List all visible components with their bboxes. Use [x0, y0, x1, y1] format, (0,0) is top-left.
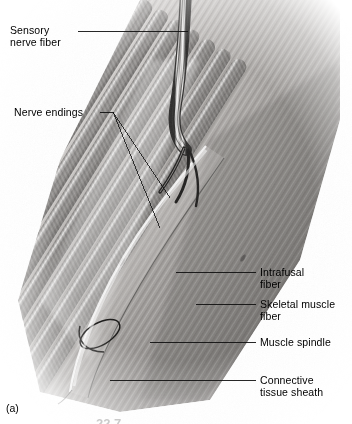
- muscle-spindle-illustration: [0, 0, 352, 424]
- skeletal-muscle-fibers: [0, 0, 249, 424]
- figure-part-marker: (a): [6, 402, 19, 414]
- label-skeletal-muscle-fiber: Skeletal muscle fiber: [260, 298, 335, 323]
- connective-tissue-sheath-group: [58, 146, 224, 404]
- cut-off-figure-caption: 22.7: [96, 416, 166, 424]
- sensory-nerve-fiber-group: [160, 0, 198, 206]
- figure-muscle-spindle: Sensory nerve fiber Nerve endings Intraf…: [0, 0, 352, 424]
- label-nerve-endings: Nerve endings: [14, 106, 83, 118]
- leader-nerve-endings-branch-2: [113, 112, 160, 228]
- label-sensory-nerve-fiber: Sensory nerve fiber: [10, 24, 61, 49]
- label-muscle-spindle: Muscle spindle: [260, 336, 331, 348]
- label-connective-tissue-sheath: Connective tissue sheath: [260, 374, 323, 399]
- label-intrafusal-fiber: Intrafusal fiber: [260, 266, 304, 291]
- muscle-belly-group: [0, 0, 352, 424]
- spindle-capsule-ring: [75, 313, 124, 354]
- leader-nerve-endings-branch-1: [113, 112, 170, 198]
- leader-lines: [78, 31, 256, 380]
